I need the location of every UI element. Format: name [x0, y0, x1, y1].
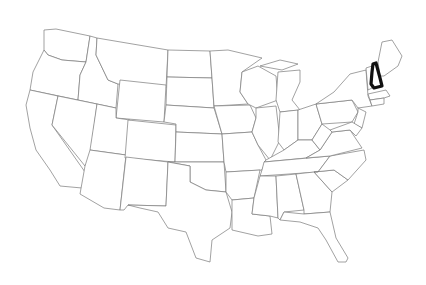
state-north-dakota [167, 50, 212, 78]
us-outline-map [0, 0, 426, 285]
state-new-mexico [120, 157, 168, 210]
state-colorado [125, 120, 176, 162]
state-arizona [80, 150, 126, 210]
state-south-dakota [166, 77, 214, 108]
map-svg [0, 0, 426, 285]
state-kansas [175, 132, 224, 162]
states [26, 29, 402, 262]
state-florida [280, 212, 348, 262]
state-wyoming [116, 80, 166, 122]
state-maine [378, 40, 402, 76]
